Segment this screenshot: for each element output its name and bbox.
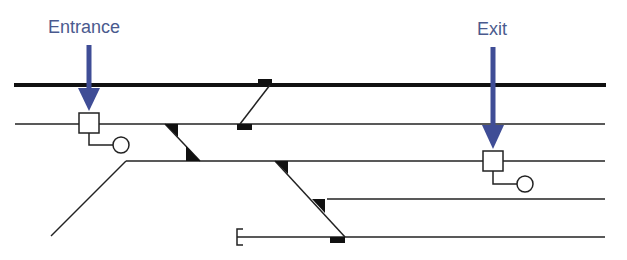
crossover-1 <box>240 85 270 124</box>
signal-lamp-icon <box>113 137 129 153</box>
track-diagram <box>0 0 627 260</box>
point-marker <box>330 237 345 243</box>
point-marker <box>312 199 325 213</box>
diagonal-siding <box>51 161 126 236</box>
exit-signal <box>483 151 503 171</box>
exit-arrowhead-icon <box>482 125 504 149</box>
signal-post <box>493 171 517 184</box>
signal-lamp-icon <box>517 176 533 192</box>
entrance-arrowhead-icon <box>78 88 100 111</box>
point-marker <box>237 124 252 130</box>
point-marker <box>165 124 178 137</box>
entrance-signal <box>79 113 99 133</box>
point-marker <box>258 79 272 85</box>
signal-post <box>89 133 113 145</box>
